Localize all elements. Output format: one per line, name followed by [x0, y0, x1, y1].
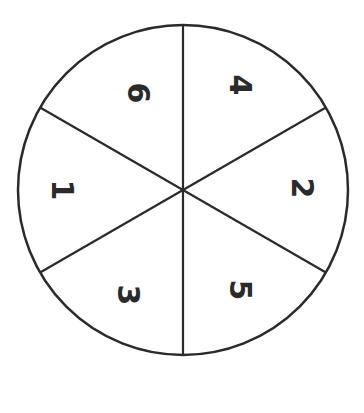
sector-label-4: 4 — [223, 75, 258, 96]
sector-label-5: 5 — [223, 280, 258, 301]
sector-label-2: 2 — [285, 178, 320, 199]
sector-label-1: 1 — [45, 180, 80, 201]
sector-label-3: 3 — [111, 285, 146, 306]
sector-label-6: 6 — [121, 83, 156, 104]
spinner-diagram: 6 4 2 5 3 1 — [0, 0, 364, 413]
